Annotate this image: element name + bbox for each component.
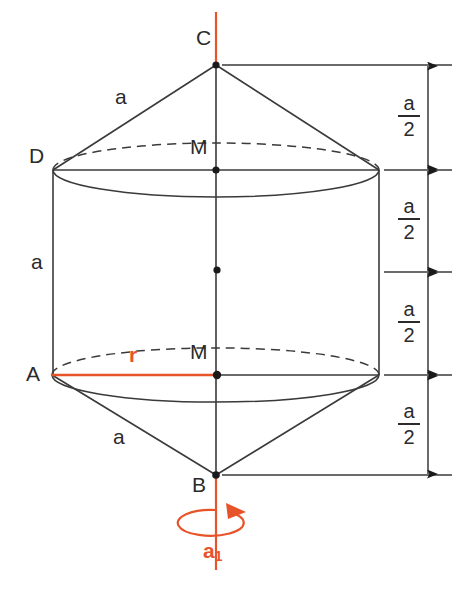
point-dot-M-top bbox=[212, 166, 219, 173]
rotation-axis-label-base: a bbox=[203, 539, 215, 562]
fraction-bar bbox=[398, 321, 420, 323]
rotation-direction-icon bbox=[178, 503, 246, 536]
point-dot-C bbox=[212, 61, 219, 68]
geometry-figure: C D M A M B a a a r a1 a 2 a 2 a 2 a 2 bbox=[0, 0, 461, 598]
point-label-M-top: M bbox=[190, 136, 208, 157]
point-dot-B bbox=[212, 471, 220, 479]
bottom-cone-slant-right bbox=[216, 375, 379, 475]
dimension-label-1-denominator: 2 bbox=[396, 118, 422, 139]
fraction-bar bbox=[398, 115, 420, 117]
point-label-C: C bbox=[196, 27, 211, 48]
dimension-label-4: a 2 bbox=[396, 401, 422, 447]
dimension-label-3: a 2 bbox=[396, 299, 422, 345]
dimension-label-4-denominator: 2 bbox=[396, 426, 422, 447]
edge-label-slant-top: a bbox=[115, 86, 127, 107]
dimension-label-2-numerator: a bbox=[396, 196, 422, 217]
top-cone-slant-right bbox=[216, 65, 379, 170]
dimension-label-2-denominator: 2 bbox=[396, 221, 422, 242]
point-dot-M-bottom bbox=[213, 371, 221, 379]
figure-canvas bbox=[0, 0, 461, 598]
point-dot-center bbox=[213, 266, 220, 273]
dimension-label-1-numerator: a bbox=[396, 93, 422, 114]
dimension-label-3-denominator: 2 bbox=[396, 324, 422, 345]
point-label-D: D bbox=[29, 145, 44, 166]
radius-label: r bbox=[129, 344, 137, 365]
rotation-axis-label: a1 bbox=[203, 540, 222, 564]
dimension-label-4-numerator: a bbox=[396, 401, 422, 422]
point-label-A: A bbox=[26, 363, 40, 384]
edge-label-side-left: a bbox=[31, 251, 43, 272]
dimension-label-1: a 2 bbox=[396, 93, 422, 139]
dimension-label-2: a 2 bbox=[396, 196, 422, 242]
point-label-B: B bbox=[192, 474, 206, 495]
rotation-axis-label-subscript: 1 bbox=[215, 548, 223, 564]
edge-label-slant-bottom: a bbox=[113, 426, 125, 447]
fraction-bar bbox=[398, 218, 420, 220]
fraction-bar bbox=[398, 423, 420, 425]
point-label-M-bottom: M bbox=[190, 341, 208, 362]
dimension-label-3-numerator: a bbox=[396, 299, 422, 320]
bottom-cone-slant-left bbox=[52, 375, 216, 475]
